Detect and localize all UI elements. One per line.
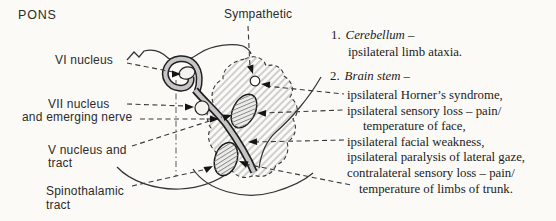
finding-1-heading: 1.Cerebellum – <box>331 28 414 42</box>
pons-figure: PONS Sympathetic VI nucleus VII nucleus … <box>0 0 556 221</box>
finding-2-effect-contralateral-sensory: contralateral sensory loss – pain/ <box>347 166 515 180</box>
leader-spinothalamic <box>132 170 203 186</box>
label-spinothalamic-line2: tract <box>46 199 70 212</box>
leader-vii-nucleus <box>127 104 186 106</box>
figure-title: PONS <box>18 9 57 22</box>
finding-1-effect: ipsilateral limb ataxia. <box>348 45 462 59</box>
finding-2-effect-lateral-gaze: ipsilateral paralysis of lateral gaze, <box>347 150 525 164</box>
label-vi-nucleus: VI nucleus <box>55 54 113 67</box>
finding-2-effect-sensory-face: ipsilateral sensory loss – pain/ <box>347 104 501 118</box>
sympathetic-fibers-shape <box>250 76 260 86</box>
leader-v-nucleus <box>132 117 222 146</box>
label-sympathetic: Sympathetic <box>224 8 292 21</box>
finding-1-number: 1. <box>331 28 341 42</box>
finding-2-effect-horners: ipsilateral Horner’s syndrome, <box>347 88 503 102</box>
label-vii-nucleus-line2: and emerging nerve <box>22 111 132 124</box>
finding-2-effect-contralateral-sensory-cont: temperature of limbs of trunk. <box>359 182 513 196</box>
vii-nucleus-shape <box>195 101 209 115</box>
label-spinothalamic: Spinothalamic <box>46 185 124 198</box>
finding-1-structure: Cerebellum – <box>346 28 415 42</box>
finding-2-number: 2. <box>330 69 340 83</box>
arrow-vii-nucleus <box>185 104 194 111</box>
finding-2-effect-sensory-face-cont: temperature of face, <box>363 119 466 133</box>
finding-2-effect-facial-weakness: ipsilateral facial weakness, <box>347 135 485 149</box>
finding-2-heading: 2.Brain stem – <box>330 69 410 83</box>
arrow-spinothalamic <box>203 163 214 173</box>
finding-2-structure: Brain stem – <box>345 69 410 83</box>
label-v-nucleus-line2: tract <box>48 157 72 170</box>
